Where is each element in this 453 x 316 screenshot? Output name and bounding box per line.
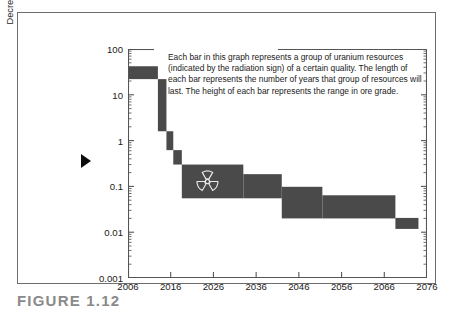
x-tick-label: 2056 xyxy=(331,281,352,292)
y-tick-label: 10 xyxy=(112,89,123,100)
y-tick-label: 0.1 xyxy=(110,181,123,192)
y-axis-tick-labels: 1001010.10.010.001 xyxy=(78,49,123,278)
y-axis-title-line1: Decreasing Uranium ore grade xyxy=(4,0,16,61)
x-tick-label: 2006 xyxy=(117,281,138,292)
bar-highest-grade-resources xyxy=(128,66,158,79)
bar-grade-step-8 xyxy=(322,195,395,218)
x-tick-label: 2066 xyxy=(374,281,395,292)
bar-grade-step-7 xyxy=(282,187,323,219)
bar-grade-step-6 xyxy=(243,174,281,198)
y-tick-label: 100 xyxy=(107,44,123,55)
bar-grade-step-3 xyxy=(166,131,173,150)
y-tick-label: 0.01 xyxy=(104,227,123,238)
x-tick-label: 2026 xyxy=(203,281,224,292)
x-tick-label: 2016 xyxy=(160,281,181,292)
chart-annotation-text: Each bar in this graph represents a grou… xyxy=(168,52,423,97)
bar-grade-step-2 xyxy=(158,79,167,131)
x-axis-tick-labels: 20062016202620362046205620662076 xyxy=(128,281,427,299)
y-axis-title: Decreasing Uranium ore grade (m-% U3O8) xyxy=(4,0,31,61)
x-tick-label: 2076 xyxy=(416,281,437,292)
x-tick-label: 2046 xyxy=(288,281,309,292)
figure-frame: Decreasing Uranium ore grade (m-% U3O8) … xyxy=(17,12,436,284)
figure-caption: FIGURE 1.12 xyxy=(17,292,120,309)
y-axis-title-line2: (m-% U3O8) xyxy=(16,0,31,61)
y-tick-label: 1 xyxy=(118,135,123,146)
bar-grade-step-4 xyxy=(173,150,182,164)
x-tick-label: 2036 xyxy=(245,281,266,292)
uranium-ore-grade-figure: Decreasing Uranium ore grade (m-% U3O8) … xyxy=(0,0,453,316)
bar-lowest-grade-resources xyxy=(395,218,418,229)
